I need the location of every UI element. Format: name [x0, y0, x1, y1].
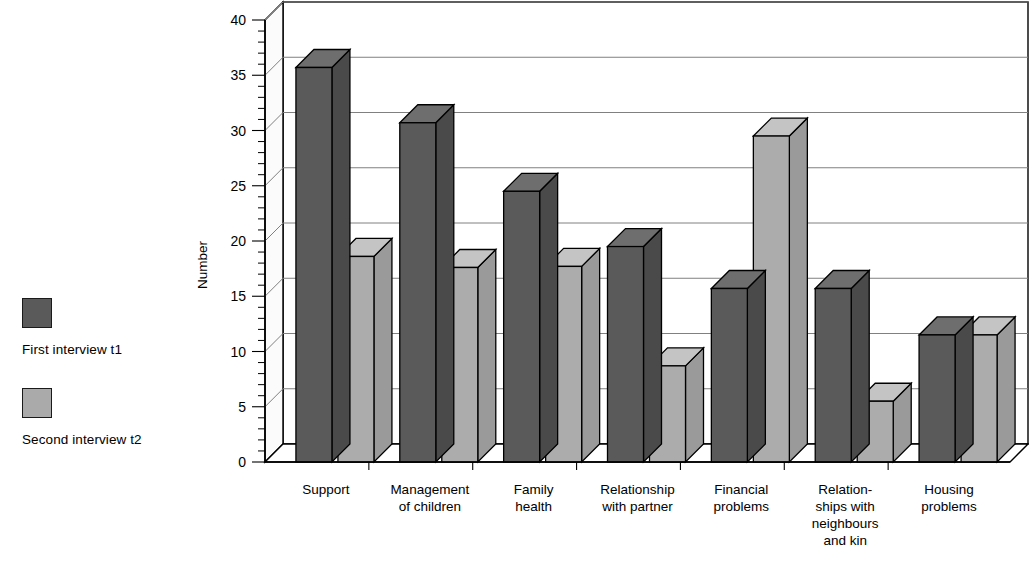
x-axis-category-label: Management: [390, 482, 469, 497]
bar-t1-5: [815, 271, 869, 462]
y-axis-tick-label: 35: [230, 67, 246, 83]
bar-side-face: [332, 50, 350, 462]
x-axis-category-label: health: [515, 499, 552, 514]
bar-side-face: [374, 238, 392, 462]
bar-front-face: [919, 335, 955, 462]
y-axis-tick-label: 40: [230, 12, 246, 28]
bar-t1-2: [504, 173, 558, 462]
x-axis-category-label: Financial: [714, 482, 768, 497]
y-axis-tick-label: 10: [230, 344, 246, 360]
bar-front-face: [504, 191, 540, 462]
x-axis-category-label: Relation-: [818, 482, 872, 497]
bar-side-face: [789, 118, 807, 462]
x-axis-category-label: with partner: [601, 499, 673, 514]
x-axis-category-label: of children: [399, 499, 461, 514]
bar-t1-1: [400, 105, 454, 462]
y-axis: 0510152025303540Number: [195, 12, 265, 470]
bar-side-face: [540, 173, 558, 462]
bar-t1-0: [296, 50, 350, 462]
y-axis-tick-label: 20: [230, 233, 246, 249]
x-axis-category-label: problems: [714, 499, 770, 514]
x-axis-category-label: and kin: [823, 533, 867, 548]
bar-side-face: [644, 229, 662, 462]
bar-front-face: [296, 68, 332, 462]
bar-front-face: [400, 123, 436, 462]
x-axis-category-label: Family: [514, 482, 554, 497]
y-axis-tick-label: 25: [230, 178, 246, 194]
chart-canvas: 0510152025303540Number SupportManagement…: [0, 0, 1029, 571]
bar-side-face: [686, 348, 704, 462]
bar-t1-3: [608, 229, 662, 462]
y-axis-tick-label: 0: [238, 454, 246, 470]
bar-t1-4: [711, 271, 765, 462]
x-axis-category-label: neighbours: [812, 516, 879, 531]
y-axis-tick-label: 15: [230, 288, 246, 304]
bar-chart: 0510152025303540Number SupportManagement…: [0, 0, 1029, 571]
bar-side-face: [478, 250, 496, 462]
bar-t1-6: [919, 317, 973, 462]
bar-side-face: [851, 271, 869, 462]
y-axis-tick-label: 5: [238, 399, 246, 415]
bar-side-face: [955, 317, 973, 462]
bar-front-face: [711, 289, 747, 462]
x-axis: SupportManagementof childrenFamilyhealth…: [265, 462, 1010, 548]
bar-side-face: [747, 271, 765, 462]
bar-side-face: [582, 248, 600, 462]
bar-side-face: [436, 105, 454, 462]
x-axis-category-label: ships with: [816, 499, 875, 514]
bar-front-face: [608, 247, 644, 462]
x-axis-category-label: Relationship: [600, 482, 674, 497]
y-axis-title: Number: [195, 240, 210, 289]
bar-side-face: [997, 317, 1015, 462]
x-axis-category-label: problems: [921, 499, 977, 514]
y-axis-tick-label: 30: [230, 123, 246, 139]
x-axis-category-label: Housing: [924, 482, 974, 497]
bar-front-face: [815, 289, 851, 462]
x-axis-category-label: Support: [302, 482, 350, 497]
